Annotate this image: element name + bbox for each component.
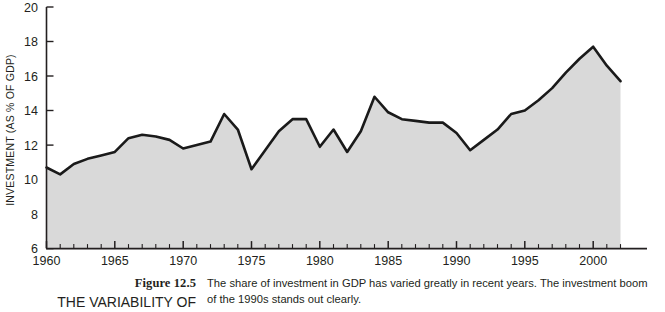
figure-caption-left: Figure 12.5 THE VARIABILITY OF — [0, 276, 196, 311]
figure-title: THE VARIABILITY OF — [0, 293, 196, 311]
caption-line-1: The share of investment in GDP has varie… — [207, 276, 659, 292]
figure-container: INVESTMENT (AS % OF GDP) 68101214161820 … — [0, 0, 665, 312]
x-tick-1965: 1965 — [101, 254, 129, 268]
x-tick-1980: 1980 — [306, 254, 334, 268]
chart-area: INVESTMENT (AS % OF GDP) 68101214161820 … — [0, 0, 665, 272]
area-fill — [47, 47, 621, 249]
y-axis-title: INVESTMENT (AS % OF GDP) — [4, 54, 16, 206]
caption-line-2: of the 1990s stands out clearly. — [207, 292, 659, 308]
y-axis-tick-labels: 68101214161820 — [24, 1, 38, 257]
y-tick-10: 10 — [24, 173, 38, 187]
x-tick-1970: 1970 — [169, 254, 197, 268]
x-tick-1985: 1985 — [374, 254, 402, 268]
x-tick-1960: 1960 — [33, 254, 61, 268]
x-tick-1990: 1990 — [443, 254, 471, 268]
x-tick-2000: 2000 — [579, 254, 607, 268]
figure-caption-text: The share of investment in GDP has varie… — [207, 276, 659, 307]
y-tick-14: 14 — [24, 104, 38, 118]
y-tick-16: 16 — [24, 70, 38, 84]
y-tick-18: 18 — [24, 35, 38, 49]
x-tick-1975: 1975 — [238, 254, 266, 268]
figure-number-label: Figure 12.5 — [0, 276, 196, 291]
x-axis-tick-labels: 196019651970197519801985199019952000 — [33, 254, 608, 268]
x-tick-1995: 1995 — [511, 254, 539, 268]
y-tick-20: 20 — [24, 1, 38, 15]
figure-caption-block: Figure 12.5 THE VARIABILITY OF The share… — [0, 276, 665, 312]
y-tick-8: 8 — [31, 208, 38, 222]
investment-share-area-chart: INVESTMENT (AS % OF GDP) 68101214161820 … — [0, 0, 665, 272]
y-tick-12: 12 — [24, 139, 38, 153]
